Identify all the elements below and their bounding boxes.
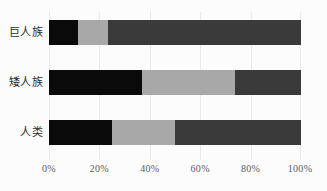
x-tick-label-60: 60% — [191, 163, 210, 174]
category-label-humans: 人类 — [0, 120, 43, 145]
x-tick-label-0: 0% — [42, 163, 56, 174]
bar-segment-series-1[interactable] — [49, 120, 112, 145]
bar-row-giants[interactable] — [49, 20, 301, 45]
bar-row-humans[interactable] — [49, 120, 301, 145]
stacked-bar-chart: 巨人族 矮人族 人类 0% 20% 40% 60% 80% 100% — [0, 0, 327, 191]
bar-segment-series-1[interactable] — [49, 20, 78, 45]
bar-segment-series-3[interactable] — [108, 20, 301, 45]
bar-segment-series-3[interactable] — [175, 120, 301, 145]
x-tick-label-20: 20% — [90, 163, 109, 174]
bar-segment-series-1[interactable] — [49, 70, 142, 95]
x-axis: 0% 20% 40% 60% 80% 100% — [49, 163, 301, 183]
bar-segment-series-2[interactable] — [78, 20, 108, 45]
bar-segment-series-2[interactable] — [142, 70, 235, 95]
plot-area — [49, 12, 301, 160]
x-tick-label-100: 100% — [288, 163, 313, 174]
x-tick-label-40: 40% — [140, 163, 159, 174]
category-label-dwarves: 矮人族 — [0, 70, 43, 95]
bar-segment-series-2[interactable] — [112, 120, 175, 145]
x-tick-label-80: 80% — [241, 163, 260, 174]
bar-segment-series-3[interactable] — [235, 70, 301, 95]
bar-row-dwarves[interactable] — [49, 70, 301, 95]
category-label-giants: 巨人族 — [0, 20, 43, 45]
